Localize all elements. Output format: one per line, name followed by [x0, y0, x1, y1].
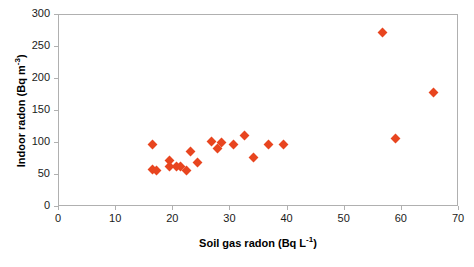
data-point — [192, 158, 202, 168]
data-point — [279, 140, 289, 150]
x-axis-tick — [58, 206, 59, 210]
x-axis-tick-label: 20 — [152, 212, 192, 224]
x-axis-tick — [458, 206, 459, 210]
plot-area — [58, 14, 458, 206]
x-axis-tick — [229, 206, 230, 210]
x-axis-tick-label: 50 — [324, 212, 364, 224]
y-axis-tick-label: 0 — [0, 200, 50, 211]
x-axis-title-text: Soil gas radon — [199, 237, 275, 249]
y-axis-tick-label: 300 — [0, 8, 50, 19]
x-axis-tick-label: 30 — [209, 212, 249, 224]
x-axis-tick — [172, 206, 173, 210]
x-axis-title: Soil gas radon (Bq L-1) — [58, 235, 458, 249]
data-point — [147, 140, 157, 150]
y-axis-tick — [54, 14, 58, 15]
data-point — [429, 87, 439, 97]
x-axis-unit-text: Bq L — [282, 237, 306, 249]
data-point — [377, 27, 387, 37]
y-axis-tick-label: 50 — [0, 168, 50, 179]
data-point — [229, 140, 239, 150]
y-axis-tick-label: 250 — [0, 40, 50, 51]
scatter-chart: Soil gas radon (Bq L-1) Indoor radon (Bq… — [0, 0, 474, 267]
x-axis-tick-label: 60 — [381, 212, 421, 224]
x-axis-tick — [401, 206, 402, 210]
data-point — [263, 139, 273, 149]
y-axis-tick — [54, 142, 58, 143]
x-axis-tick-label: 70 — [438, 212, 474, 224]
x-axis-unit-exponent: -1 — [306, 235, 313, 244]
y-axis-tick-label: 150 — [0, 104, 50, 115]
y-axis-tick-label: 100 — [0, 136, 50, 147]
y-axis-tick-label: 200 — [0, 72, 50, 83]
x-axis-tick — [344, 206, 345, 210]
x-axis-tick-label: 0 — [38, 212, 78, 224]
x-axis-tick — [115, 206, 116, 210]
data-point — [240, 130, 250, 140]
y-axis-tick — [54, 110, 58, 111]
y-axis-unit-exponent: -3 — [13, 58, 22, 65]
y-axis-tick — [54, 46, 58, 47]
y-axis-tick — [54, 174, 58, 175]
data-point — [248, 153, 258, 163]
y-axis-tick — [54, 78, 58, 79]
data-point — [390, 134, 400, 144]
x-axis-tick — [287, 206, 288, 210]
x-axis-tick-label: 40 — [267, 212, 307, 224]
x-axis-tick-label: 10 — [95, 212, 135, 224]
data-point — [185, 147, 195, 157]
